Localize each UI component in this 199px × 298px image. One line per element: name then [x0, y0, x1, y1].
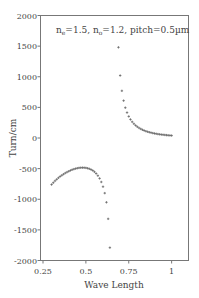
x-tick-label: 0.75: [120, 267, 138, 276]
x-tick-label: 1: [169, 267, 174, 276]
y-tick-label: 1500: [17, 42, 37, 51]
y-axis-label: Turn/cm: [8, 118, 18, 157]
y-tick-label: -1500: [14, 226, 37, 235]
x-axis-label: Wave Length: [84, 280, 144, 290]
y-tick-label: 1000: [17, 73, 37, 82]
y-tick-label: 0: [32, 134, 37, 143]
plot-frame: [41, 16, 189, 261]
y-tick-label: 2000: [17, 12, 37, 21]
x-tick-label: 0.5: [80, 267, 93, 276]
x-tick-label: 0.25: [34, 267, 52, 276]
y-tick-label: -1000: [14, 195, 37, 204]
scatter-chart: 2000150010005000-500-1000-1500-2000 0.25…: [0, 0, 199, 298]
y-tick-label: -2000: [14, 257, 37, 266]
annotation: ne=1.5, no=1.2, pitch=0.5µm: [56, 25, 190, 36]
x-axis: 0.250.50.751: [34, 261, 174, 277]
y-tick-label: 500: [22, 103, 37, 112]
y-tick-label: -500: [19, 165, 37, 174]
